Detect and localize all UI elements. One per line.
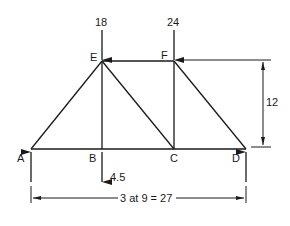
- load-value-b: 4.5: [110, 172, 125, 183]
- member-df: [174, 61, 246, 149]
- member-ce: [102, 61, 174, 149]
- height-label: 12: [266, 97, 278, 108]
- node-label-a: A: [17, 153, 24, 164]
- span-label: 3 at 9 = 27: [120, 193, 172, 204]
- node-label-d: D: [232, 153, 240, 164]
- node-label-b: B: [89, 153, 96, 164]
- node-label-c: C: [170, 153, 178, 164]
- truss-diagram: 18 24 4.5 E F A B C D 12 3 at 9 = 27: [0, 0, 290, 226]
- truss-members: [31, 61, 246, 149]
- node-label-f: F: [161, 50, 168, 61]
- reaction-arrows: [31, 152, 246, 182]
- member-ae: [31, 61, 102, 149]
- load-value-f: 24: [167, 17, 179, 28]
- load-value-e: 18: [95, 17, 107, 28]
- node-label-e: E: [90, 52, 97, 63]
- height-dimension: [180, 60, 271, 147]
